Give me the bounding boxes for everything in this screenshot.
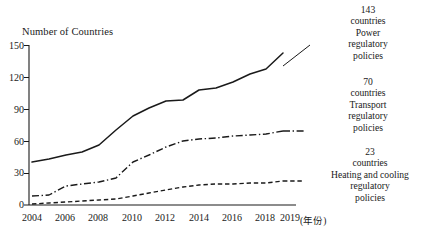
axis-lines bbox=[29, 45, 296, 205]
line-chart-figure: Number of Countries 150 120 90 60 30 0 2… bbox=[0, 0, 429, 233]
annotation-heating-line3: regulatory bbox=[311, 180, 429, 191]
annotation-transport-line3: regulatory bbox=[316, 110, 420, 121]
annotation-power-line1: countries bbox=[316, 15, 420, 26]
annotation-power-line2: Power bbox=[316, 27, 420, 38]
annotation-heating-line4: policies bbox=[311, 192, 429, 203]
annotation-heating: 23 countries Heating and cooling regulat… bbox=[311, 146, 429, 203]
annotation-heating-count: 23 bbox=[311, 146, 429, 157]
annotation-transport-line2: Transport bbox=[316, 99, 420, 110]
leader-line-power bbox=[283, 45, 310, 66]
annotation-power-line4: policies bbox=[316, 50, 420, 61]
series-line-transport bbox=[32, 131, 283, 196]
annotation-transport-line4: policies bbox=[316, 122, 420, 133]
y-axis-ticks bbox=[24, 46, 29, 206]
annotation-power-count: 143 bbox=[316, 4, 420, 15]
annotation-heating-line2: Heating and cooling bbox=[311, 169, 429, 180]
series-line-power bbox=[32, 53, 283, 162]
annotation-power: 143 countries Power regulatory policies bbox=[316, 4, 420, 61]
series-line-heating bbox=[32, 181, 283, 204]
annotation-heating-line1: countries bbox=[311, 157, 429, 168]
annotation-transport: 70 countries Transport regulatory polici… bbox=[316, 76, 420, 133]
annotation-transport-line1: countries bbox=[316, 87, 420, 98]
annotation-transport-count: 70 bbox=[316, 76, 420, 87]
annotation-power-line3: regulatory bbox=[316, 38, 420, 49]
